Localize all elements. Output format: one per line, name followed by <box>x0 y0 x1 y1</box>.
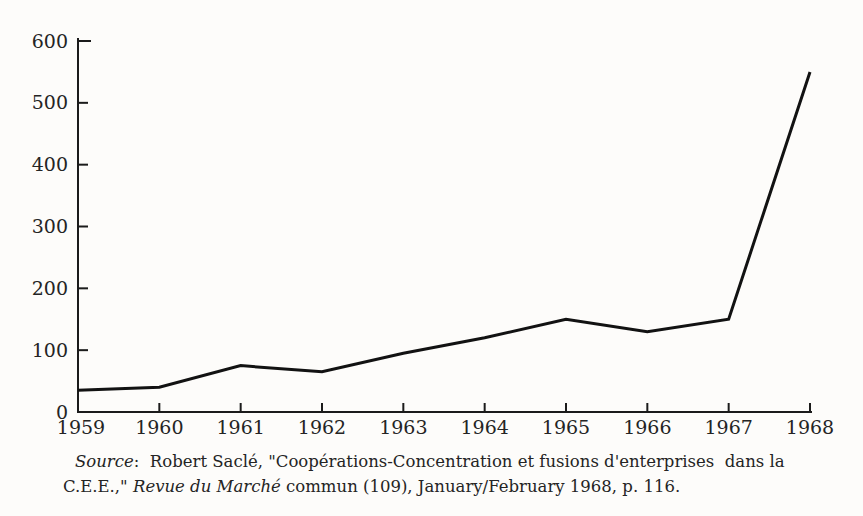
x-tick-label: 1959 <box>57 416 105 438</box>
x-tick-label: 1962 <box>298 416 346 438</box>
y-tick-label: 600 <box>32 30 68 52</box>
data-series-line <box>78 72 810 390</box>
y-tick-label: 500 <box>32 91 68 113</box>
y-tick-label: 300 <box>32 215 68 237</box>
y-tick-label: 100 <box>32 339 68 361</box>
caption-text-2: C.E.E.," <box>63 477 133 496</box>
caption-text-1: : Robert Saclé, "Coopérations-Concentrat… <box>134 452 785 471</box>
x-tick-label: 1968 <box>786 416 834 438</box>
caption-line-1: Source: Robert Saclé, "Coopérations-Conc… <box>63 449 825 474</box>
x-tick-label: 1960 <box>135 416 183 438</box>
y-tick-label: 200 <box>32 277 68 299</box>
x-tick-label: 1963 <box>379 416 427 438</box>
x-tick-label: 1966 <box>623 416 671 438</box>
caption-line-2: C.E.E.," Revue du Marché commun (109), J… <box>63 474 825 499</box>
source-label: Source <box>75 452 134 471</box>
line-chart: 0100200300400500600195919601961196219631… <box>0 0 863 446</box>
x-tick-label: 1965 <box>542 416 590 438</box>
caption-text-3: commun (109), January/February 1968, p. … <box>281 477 680 496</box>
x-tick-label: 1964 <box>460 416 508 438</box>
x-tick-label: 1961 <box>216 416 264 438</box>
chart-page: 0100200300400500600195919601961196219631… <box>0 0 863 516</box>
y-tick-label: 400 <box>32 153 68 175</box>
x-tick-label: 1967 <box>704 416 752 438</box>
source-caption: Source: Robert Saclé, "Coopérations-Conc… <box>63 449 825 499</box>
journal-title: Revue du Marché <box>133 477 281 496</box>
